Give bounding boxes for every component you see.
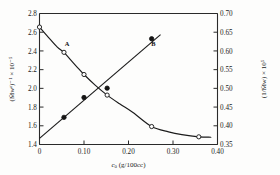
marker-A [62, 50, 66, 54]
right-axis-label: (1/M̄w) × 10⁵ [260, 59, 268, 98]
svg-text:0.60: 0.60 [220, 48, 233, 56]
svg-text:0.65: 0.65 [220, 29, 233, 37]
svg-text:0.55: 0.55 [220, 66, 233, 74]
svg-text:0.50: 0.50 [220, 85, 233, 93]
svg-text:2.4: 2.4 [28, 48, 37, 56]
svg-text:1.8: 1.8 [28, 104, 37, 112]
svg-text:2.6: 2.6 [28, 29, 37, 37]
scientific-plot: 00.100.200.300.40 1.41.61.82.02.22.42.62… [0, 0, 280, 175]
svg-text:A: A [65, 40, 70, 47]
svg-text:0.10: 0.10 [78, 148, 91, 156]
svg-text:0.70: 0.70 [220, 10, 233, 18]
svg-text:1.4: 1.4 [28, 141, 37, 149]
plot-background [0, 0, 280, 175]
marker-A [105, 93, 109, 97]
svg-text:B: B [151, 40, 156, 47]
figure-container: 00.100.200.300.40 1.41.61.82.02.22.42.62… [0, 0, 280, 175]
svg-text:2.2: 2.2 [28, 66, 37, 74]
x-axis-label: c0 (g/100cc) [111, 161, 146, 170]
left-axis-label: (M̄wᵃ)⁻¹ × 10⁻⁵ [8, 56, 16, 101]
svg-text:1.6: 1.6 [28, 122, 37, 130]
svg-text:2.0: 2.0 [28, 85, 37, 93]
svg-text:0.30: 0.30 [167, 148, 180, 156]
marker-B [62, 115, 66, 119]
marker-B [82, 95, 86, 99]
marker-A [37, 25, 41, 29]
svg-text:0.40: 0.40 [220, 122, 233, 130]
marker-B [105, 86, 109, 90]
marker-A [150, 124, 154, 128]
svg-text:2.8: 2.8 [28, 10, 37, 18]
marker-A [197, 135, 201, 139]
svg-text:0.45: 0.45 [220, 104, 233, 112]
svg-text:0.20: 0.20 [122, 148, 135, 156]
marker-A [82, 72, 86, 76]
svg-text:0: 0 [38, 148, 42, 156]
svg-text:0.35: 0.35 [220, 141, 233, 149]
